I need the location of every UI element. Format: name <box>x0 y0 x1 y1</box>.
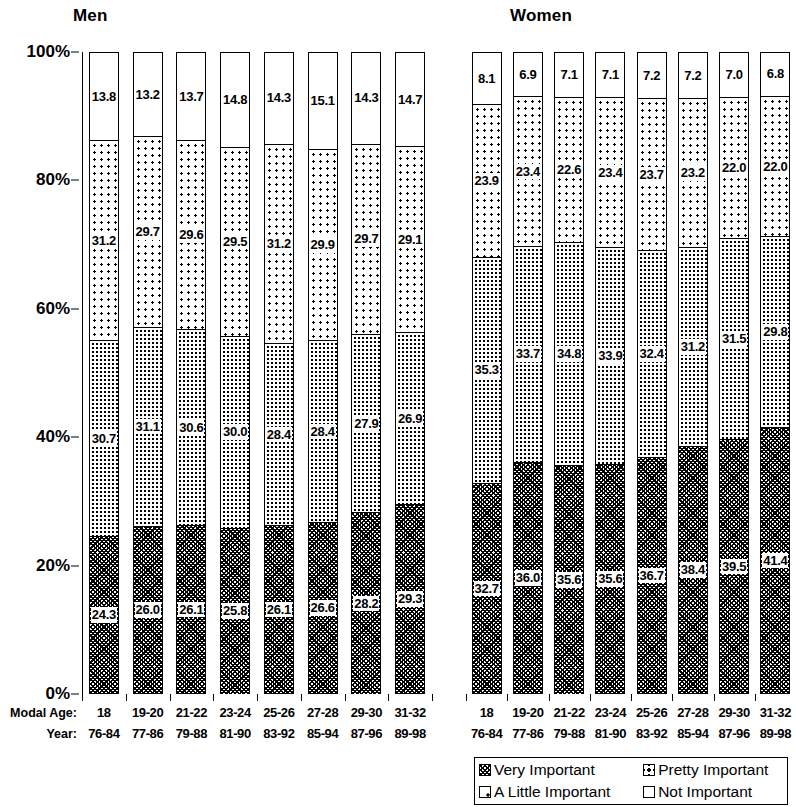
bar-slot: 7.123.433.935.6 <box>590 52 631 694</box>
stacked-bar[interactable]: 14.729.126.929.3 <box>395 52 425 694</box>
x-axis-label: 87-96 <box>345 726 389 741</box>
bar-segment-value: 32.4 <box>639 346 665 362</box>
x-axis-label: 83-92 <box>257 726 301 741</box>
stacked-bar[interactable]: 7.022.031.539.5 <box>719 52 749 694</box>
legend-label: Pretty Important <box>658 759 768 781</box>
bar-segment: 26.1 <box>177 526 205 693</box>
x-axis-label: 81-90 <box>213 726 257 741</box>
stacked-bar[interactable]: 13.831.230.724.3 <box>89 52 119 694</box>
stacked-bar[interactable]: 7.223.732.436.7 <box>637 52 667 694</box>
bar-segment-value: 31.2 <box>680 339 706 355</box>
stacked-bar[interactable]: 14.329.727.928.2 <box>351 52 381 694</box>
x-axis-label: 21-22 <box>170 705 214 720</box>
bar-segment: 7.1 <box>596 53 624 98</box>
x-axis-label-cells: 1819-2021-2223-2425-2627-2829-3031-32 <box>82 705 432 720</box>
stacked-bar[interactable]: 14.331.228.426.1 <box>264 52 294 694</box>
stacked-bar[interactable]: 15.129.928.426.6 <box>308 52 338 694</box>
bar-group-men: 13.831.230.724.313.229.731.126.013.729.6… <box>82 52 432 694</box>
bar-segment-value: 14.3 <box>353 90 379 106</box>
bar-group-women: 8.123.935.332.76.923.433.736.07.122.634.… <box>466 52 796 694</box>
stacked-bar[interactable]: 7.123.433.935.6 <box>595 52 625 694</box>
legend-item[interactable]: Pretty Important <box>643 759 783 781</box>
bar-segment-value: 36.0 <box>515 570 541 586</box>
x-axis-tick-mark <box>549 694 550 701</box>
x-axis-label: 85-94 <box>301 726 345 741</box>
legend-label: Not Important <box>658 781 752 803</box>
bar-segment: 26.9 <box>396 333 424 505</box>
chart-legend: Very ImportantPretty ImportantA Little I… <box>474 757 788 805</box>
bar-slot: 14.329.727.928.2 <box>345 52 389 694</box>
x-axis-tick-mark <box>507 694 508 701</box>
bar-segment-value: 35.6 <box>597 571 623 587</box>
bar-segment-value: 41.4 <box>762 553 788 569</box>
bar-segment: 23.2 <box>679 99 707 247</box>
bar-segment: 13.7 <box>177 53 205 141</box>
stacked-bar[interactable]: 8.123.935.332.7 <box>472 52 502 694</box>
bar-segment-value: 26.6 <box>310 600 336 616</box>
bar-segment-value: 29.9 <box>310 237 336 253</box>
bar-slot: 13.229.731.126.0 <box>126 52 170 694</box>
x-axis-label: 18 <box>466 705 507 720</box>
x-axis-label: 23-24 <box>590 705 631 720</box>
bar-segment-value: 22.0 <box>762 159 788 175</box>
bar-segment: 31.1 <box>134 328 162 527</box>
stacked-bar[interactable]: 13.229.731.126.0 <box>133 52 163 694</box>
x-axis-tick-mark <box>714 694 715 701</box>
bar-segment-value: 22.0 <box>721 160 747 176</box>
bar-segment: 27.9 <box>352 335 380 514</box>
x-axis-row-title: Year: <box>0 727 82 741</box>
bar-segment-value: 7.0 <box>725 67 744 83</box>
y-axis-tick-mark <box>71 52 79 53</box>
bar-segment-value: 35.3 <box>474 362 500 378</box>
bar-slot: 6.822.029.841.4 <box>755 52 796 694</box>
stacked-bar[interactable]: 6.923.433.736.0 <box>513 52 543 694</box>
bar-segment-value: 24.3 <box>91 607 117 623</box>
y-axis-tick-label: 0% <box>45 684 70 704</box>
chart-page: Men Women 100%80%60%40%20%0% 13.831.230.… <box>0 0 796 807</box>
bar-segment-value: 28.2 <box>353 596 379 612</box>
legend-item[interactable]: Very Important <box>479 759 643 781</box>
x-axis-tick-mark <box>672 694 673 701</box>
bar-segment-value: 29.8 <box>762 324 788 340</box>
legend-item[interactable]: A Little Important <box>479 781 643 803</box>
stacked-bar[interactable]: 7.122.634.835.6 <box>554 52 584 694</box>
bar-segment: 29.1 <box>396 147 424 333</box>
y-axis-tick-mark <box>71 308 79 309</box>
bar-segment: 23.9 <box>473 105 501 258</box>
bar-segment: 26.6 <box>309 523 337 693</box>
x-axis-labels-men: Modal Age:1819-2021-2223-2425-2627-2829-… <box>0 702 432 748</box>
bar-segment: 29.6 <box>177 141 205 330</box>
legend-swatch-icon <box>479 764 491 776</box>
bar-segment-value: 7.2 <box>683 68 702 84</box>
stacked-bar[interactable]: 6.822.029.841.4 <box>760 52 790 694</box>
bar-segment-value: 38.4 <box>680 562 706 578</box>
bar-segment-value: 29.7 <box>353 231 379 247</box>
bar-segment: 30.6 <box>177 330 205 526</box>
bar-segment: 14.3 <box>352 53 380 145</box>
bar-segment-value: 13.7 <box>178 89 204 105</box>
bar-segment: 22.0 <box>761 97 789 238</box>
legend-label: A Little Important <box>494 781 610 803</box>
x-axis-tick-mark <box>631 694 632 701</box>
x-axis-label-cells: 1819-2021-2223-2425-2627-2829-3031-32 <box>466 705 796 720</box>
bar-segment: 28.2 <box>352 513 380 693</box>
bar-segment-value: 34.8 <box>556 346 582 362</box>
bar-segment: 31.5 <box>720 239 748 441</box>
stacked-bar[interactable]: 14.829.530.025.8 <box>220 52 250 694</box>
y-axis-tick-label: 60% <box>36 299 70 319</box>
bar-segment-value: 36.7 <box>639 568 665 584</box>
x-axis-tick-mark <box>126 694 127 701</box>
stacked-bar[interactable]: 13.729.630.626.1 <box>176 52 206 694</box>
bar-segment-value: 29.1 <box>397 232 423 248</box>
x-axis-year-row: Year:76-8477-8679-8881-9083-9285-9487-96… <box>0 723 432 744</box>
bar-segment-value: 30.6 <box>178 420 204 436</box>
stacked-bar[interactable]: 7.223.231.238.4 <box>678 52 708 694</box>
legend-item[interactable]: Not Important <box>643 781 783 803</box>
bar-segment-value: 32.7 <box>474 581 500 597</box>
y-axis-tick-label: 40% <box>36 427 70 447</box>
bar-segment-value: 31.1 <box>135 419 161 435</box>
x-axis-label: 25-26 <box>631 705 672 720</box>
x-axis-tick-mark <box>213 694 214 701</box>
bar-segment-value: 33.7 <box>515 346 541 362</box>
x-axis-label: 31-32 <box>388 705 432 720</box>
